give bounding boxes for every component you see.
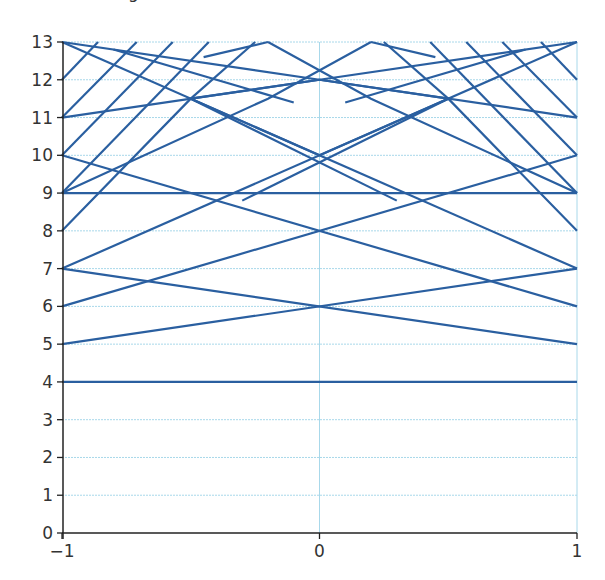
x-tick-label: −1 bbox=[49, 541, 74, 561]
y-tick-label: 2 bbox=[42, 447, 53, 467]
series-line-12-up-left bbox=[62, 42, 98, 80]
y-tick-label: 6 bbox=[42, 296, 53, 316]
y-tick-label: 5 bbox=[42, 334, 53, 354]
series-line-lower-left-b bbox=[191, 99, 397, 201]
y-tick-label: 8 bbox=[42, 221, 53, 241]
series-line-lower-right-b bbox=[242, 99, 448, 201]
series-line-10-up-right bbox=[466, 42, 577, 155]
y-tick-label: 13 bbox=[31, 32, 53, 52]
y-tick-label: 0 bbox=[42, 523, 53, 543]
y-tick-label: 1 bbox=[42, 485, 53, 505]
series-line-8-peak-right bbox=[320, 80, 578, 231]
y-tick-label: 11 bbox=[31, 108, 53, 128]
series-line-10-up-left bbox=[62, 42, 173, 155]
y-tick-label: 4 bbox=[42, 372, 53, 392]
series-line-12-up-right bbox=[541, 42, 577, 80]
y-tick-label: 3 bbox=[42, 410, 53, 430]
y-tick-label: 12 bbox=[31, 70, 53, 90]
series-line-x-left-a bbox=[204, 42, 268, 57]
series-line-x-right-a bbox=[371, 42, 435, 57]
y-tick-label: 7 bbox=[42, 259, 53, 279]
y-tick-label: 10 bbox=[31, 145, 53, 165]
series-line-8-peak-left bbox=[62, 80, 320, 231]
line-chart: 012345678910111213 −101 g bbox=[0, 0, 605, 580]
grid-lines bbox=[62, 42, 577, 533]
y-tick-label: 9 bbox=[42, 183, 53, 203]
x-axis-ticks: −101 bbox=[49, 533, 582, 561]
x-tick-label: 1 bbox=[572, 541, 583, 561]
top-partial-label: g bbox=[128, 0, 139, 2]
y-axis-ticks: 012345678910111213 bbox=[31, 32, 63, 543]
x-tick-label: 0 bbox=[314, 541, 325, 561]
